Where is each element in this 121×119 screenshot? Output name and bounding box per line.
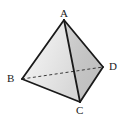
vertex-label-a: A: [60, 8, 68, 19]
vertex-label-b: B: [7, 73, 14, 84]
tetrahedron-figure: A B C D: [0, 0, 121, 119]
vertex-label-c: C: [76, 105, 83, 116]
vertex-label-d: D: [109, 61, 117, 72]
